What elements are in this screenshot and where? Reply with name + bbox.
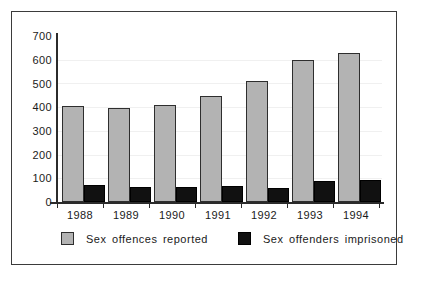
x-tick-1990 <box>149 203 150 208</box>
legend-label-imprisoned: Sex offenders imprisoned <box>263 233 404 245</box>
y-tick-label-400: 400 <box>12 102 52 113</box>
x-tick-1989 <box>103 203 104 208</box>
x-tick-label-1989: 1989 <box>103 209 149 221</box>
bar-imprisoned-1993[interactable] <box>314 181 335 202</box>
bar-group-1994 <box>338 36 381 202</box>
bar-reported-1989[interactable] <box>108 108 130 202</box>
y-tick-label-700: 700 <box>12 31 52 42</box>
bar-reported-1992[interactable] <box>246 81 268 202</box>
bar-reported-1994[interactable] <box>338 53 360 202</box>
bar-imprisoned-1992[interactable] <box>268 188 289 202</box>
bar-imprisoned-1990[interactable] <box>176 187 197 202</box>
x-tick-1993 <box>287 203 288 208</box>
x-tick-end <box>379 203 380 208</box>
bar-imprisoned-1989[interactable] <box>130 187 151 202</box>
bar-group-1990 <box>154 36 197 202</box>
legend-item-reported[interactable]: Sex offences reported <box>61 232 208 245</box>
x-tick-1994 <box>333 203 334 208</box>
bar-imprisoned-1994[interactable] <box>360 180 381 202</box>
gray-swatch-icon <box>61 232 74 245</box>
x-tick-label-1991: 1991 <box>195 209 241 221</box>
bar-group-1989 <box>108 36 151 202</box>
y-axis-line <box>56 33 58 203</box>
bar-imprisoned-1991[interactable] <box>222 186 243 202</box>
x-tick-1992 <box>241 203 242 208</box>
bar-group-1993 <box>292 36 335 202</box>
y-tick-label-300: 300 <box>12 126 52 137</box>
x-tick-label-1988: 1988 <box>57 209 103 221</box>
bar-imprisoned-1988[interactable] <box>84 185 105 202</box>
x-tick-1988 <box>57 203 58 208</box>
black-swatch-icon <box>238 232 251 245</box>
legend-item-imprisoned[interactable]: Sex offenders imprisoned <box>238 232 404 245</box>
bar-chart-figure: 700 600 500 400 300 200 100 0 <box>0 0 421 282</box>
bar-reported-1993[interactable] <box>292 60 314 202</box>
bar-reported-1988[interactable] <box>62 106 84 202</box>
bar-reported-1990[interactable] <box>154 105 176 202</box>
y-tick-label-0: 0 <box>12 197 52 208</box>
y-tick-label-100: 100 <box>12 173 52 184</box>
x-tick-label-1993: 1993 <box>287 209 333 221</box>
chart-legend: Sex offences reported Sex offenders impr… <box>11 232 397 256</box>
bar-group-1992 <box>246 36 289 202</box>
y-tick-label-600: 600 <box>12 55 52 66</box>
plot-area <box>57 36 382 202</box>
bar-reported-1991[interactable] <box>200 96 222 202</box>
x-tick-label-1994: 1994 <box>333 209 379 221</box>
x-tick-label-1992: 1992 <box>241 209 287 221</box>
bar-group-1988 <box>62 36 105 202</box>
legend-label-reported: Sex offences reported <box>86 233 208 245</box>
x-tick-1991 <box>195 203 196 208</box>
x-tick-label-1990: 1990 <box>149 209 195 221</box>
y-tick-label-500: 500 <box>12 79 52 90</box>
y-tick-label-200: 200 <box>12 150 52 161</box>
bar-group-1991 <box>200 36 243 202</box>
